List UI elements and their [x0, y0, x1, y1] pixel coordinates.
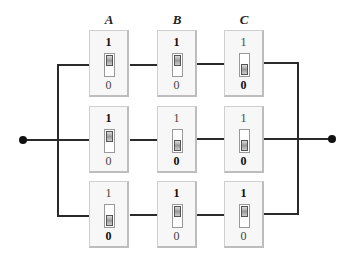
- on-label: 1: [90, 36, 127, 48]
- switch-c-row-2[interactable]: 10: [224, 106, 264, 173]
- off-label: 0: [90, 155, 127, 167]
- column-label-a: A: [89, 12, 129, 28]
- off-label: 0: [90, 79, 127, 91]
- off-label: 0: [158, 79, 195, 91]
- on-label: 1: [158, 36, 195, 48]
- toggle-lever-icon[interactable]: [239, 53, 250, 77]
- switch-a-row-2[interactable]: 10: [89, 106, 129, 173]
- toggle-lever-icon[interactable]: [172, 204, 183, 228]
- right-terminal: [328, 135, 336, 143]
- row-1-wire-ab: [130, 64, 157, 66]
- switch-a-row-1[interactable]: 10: [89, 30, 129, 97]
- switch-c-row-1[interactable]: 10: [224, 30, 264, 97]
- off-label: 0: [90, 230, 127, 242]
- left-terminal: [19, 136, 27, 144]
- row-2-wire-bc: [197, 138, 224, 140]
- row-1-wire-bc: [197, 63, 224, 65]
- on-label: 1: [90, 112, 127, 124]
- lever-knob: [174, 55, 181, 66]
- toggle-lever-icon[interactable]: [172, 53, 183, 77]
- switch-b-row-3[interactable]: 10: [157, 181, 197, 248]
- on-label: 1: [90, 187, 127, 199]
- lever-knob: [241, 64, 248, 75]
- switch-b-row-2[interactable]: 10: [157, 106, 197, 173]
- toggle-lever-icon[interactable]: [239, 129, 250, 153]
- row-2-wire-ab: [130, 139, 157, 141]
- on-label: 1: [225, 36, 262, 48]
- on-label: 1: [225, 187, 262, 199]
- off-label: 0: [158, 155, 195, 167]
- row-3-wire-right: [264, 213, 298, 215]
- lever-knob: [241, 140, 248, 151]
- off-label: 0: [225, 230, 262, 242]
- row-3-wire-bc: [197, 214, 224, 216]
- lever-knob: [174, 140, 181, 151]
- toggle-lever-icon[interactable]: [104, 204, 115, 228]
- on-label: 1: [225, 112, 262, 124]
- lever-knob: [174, 206, 181, 217]
- on-label: 1: [158, 112, 195, 124]
- switch-c-row-3[interactable]: 10: [224, 181, 264, 248]
- on-label: 1: [158, 187, 195, 199]
- row-3-wire-ab: [130, 214, 157, 216]
- column-label-c: C: [224, 12, 264, 28]
- row-1-wire-left: [57, 64, 90, 66]
- column-label-b: B: [157, 12, 197, 28]
- off-label: 0: [225, 79, 262, 91]
- right-terminal-wire: [264, 138, 332, 140]
- left-bus: [57, 64, 59, 217]
- toggle-lever-icon[interactable]: [172, 129, 183, 153]
- row-1-wire-right: [264, 62, 298, 64]
- toggle-lever-icon[interactable]: [104, 129, 115, 153]
- lever-knob: [106, 215, 113, 226]
- lever-knob: [241, 206, 248, 217]
- toggle-lever-icon[interactable]: [104, 53, 115, 77]
- switch-b-row-1[interactable]: 10: [157, 30, 197, 97]
- off-label: 0: [158, 230, 195, 242]
- switch-a-row-3[interactable]: 10: [89, 181, 129, 248]
- row-3-wire-left: [57, 215, 90, 217]
- off-label: 0: [225, 155, 262, 167]
- toggle-lever-icon[interactable]: [239, 204, 250, 228]
- lever-knob: [106, 55, 113, 66]
- lever-knob: [106, 131, 113, 142]
